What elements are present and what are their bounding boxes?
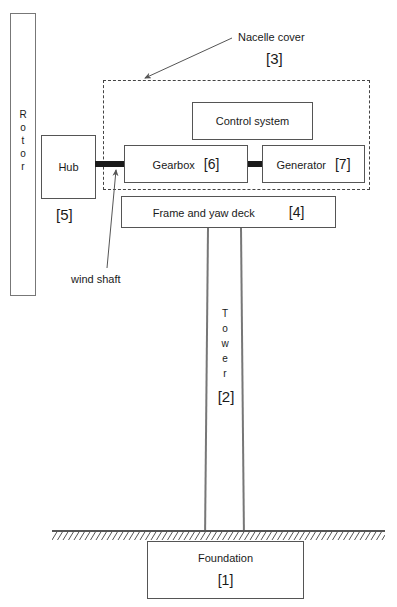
- wind-shaft-label: wind shaft: [71, 273, 121, 285]
- hub-label: Hub: [58, 161, 78, 173]
- generator-reference-number: [7]: [335, 156, 351, 172]
- nacelle-cover-label: Nacelle cover: [238, 31, 305, 43]
- control-system-box: Control system: [192, 102, 313, 140]
- nacelle-cover-reference-number: [3]: [266, 50, 283, 67]
- rotor-letter-1: o: [10, 121, 36, 134]
- frame-and-yaw-deck-box: Frame and yaw deck [4]: [121, 196, 336, 228]
- tower-letter-0: T: [209, 306, 241, 321]
- tower-reference-number: [2]: [210, 388, 242, 405]
- foundation-label: Foundation: [198, 552, 253, 564]
- tower-label: T o w e r: [209, 306, 241, 381]
- tower-letter-2: w: [209, 336, 241, 351]
- gearbox-box: Gearbox [6]: [124, 145, 248, 183]
- tower-letter-3: e: [209, 351, 241, 366]
- rotor-letter-0: R: [10, 108, 36, 121]
- control-system-label: Control system: [216, 115, 289, 127]
- nacelle-cover-leader-arrow-icon: [145, 38, 232, 78]
- gearbox-label: Gearbox: [153, 159, 195, 171]
- generator-box: Generator [7]: [262, 145, 365, 183]
- wind-shaft-segment-main: [95, 161, 125, 167]
- gearbox-reference-number: [6]: [204, 156, 220, 172]
- rotor-letter-2: t: [10, 134, 36, 147]
- tower-letter-4: r: [209, 366, 241, 381]
- tower-left-edge: [204, 228, 208, 531]
- rotor-label: R o t o r: [10, 108, 36, 173]
- frame-and-yaw-deck-label: Frame and yaw deck: [153, 207, 255, 219]
- ground-hatching-icon: [52, 531, 385, 541]
- wind-turbine-diagram: R o t o r Hub [5] Nacelle cover [3] Cont…: [0, 0, 397, 607]
- rotor-letter-3: o: [10, 147, 36, 160]
- frame-and-yaw-deck-reference-number: [4]: [289, 204, 305, 220]
- tower-letter-1: o: [209, 321, 241, 336]
- generator-label: Generator: [276, 159, 326, 171]
- hub-box: Hub: [41, 135, 96, 199]
- foundation-box: Foundation [1]: [147, 541, 304, 599]
- rotor-letter-4: r: [10, 160, 36, 173]
- foundation-reference-number: [1]: [218, 572, 234, 588]
- wind-shaft-segment-generator: [247, 161, 263, 167]
- hub-reference-number: [5]: [56, 206, 73, 223]
